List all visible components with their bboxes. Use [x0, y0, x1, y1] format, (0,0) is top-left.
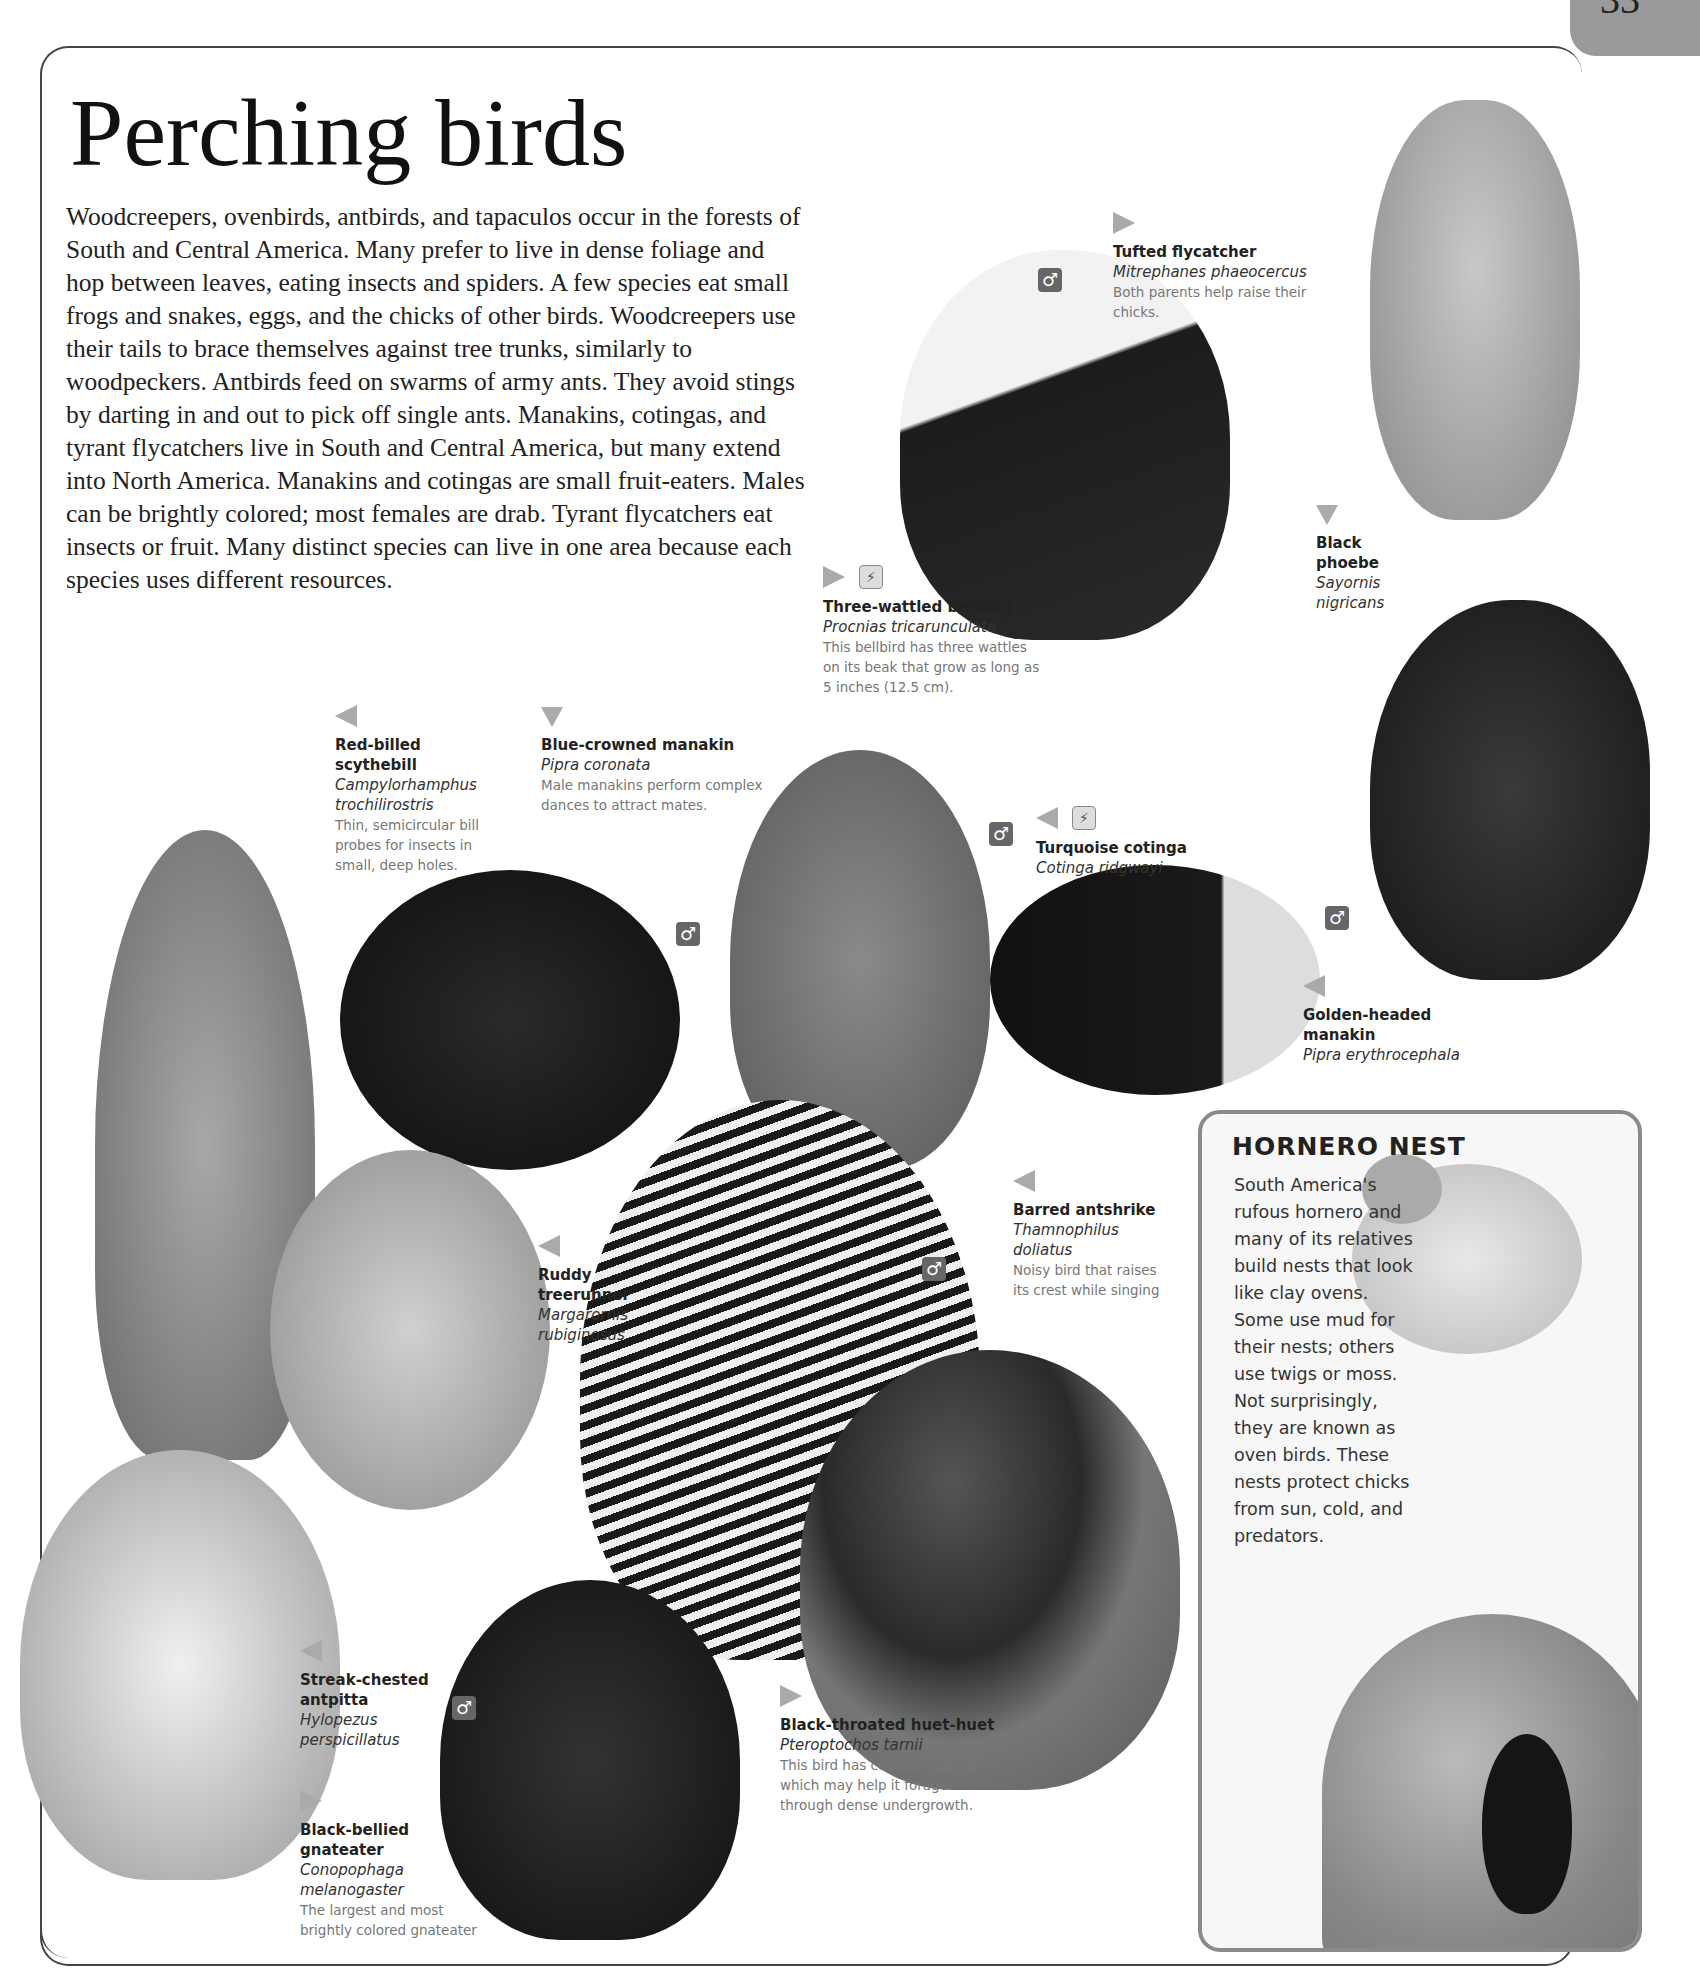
endangered-icon: ⚡: [1072, 806, 1096, 830]
gnateater-illustration: [440, 1580, 740, 1940]
antpitta-illustration: [20, 1450, 340, 1880]
arrow-right-icon: [823, 566, 845, 588]
tufted-flycatcher-illustration: [1370, 100, 1580, 520]
label-black-phoebe: Black phoebe Sayornis nigricans: [1316, 505, 1426, 613]
common-name: Black phoebe: [1316, 533, 1426, 573]
description: Noisy bird that raises its crest while s…: [1013, 1260, 1173, 1300]
male-symbol-icon: ♂: [989, 822, 1013, 846]
nest-entrance: [1482, 1734, 1572, 1914]
common-name: Red-billed scythebill: [335, 735, 495, 775]
scientific-name: Conopophaga melanogaster: [300, 1860, 480, 1900]
arrow-right-icon: [1113, 212, 1135, 234]
description: Thin, semicircular bill probes for insec…: [335, 815, 495, 875]
label-black-bellied-gnateater: Black-bellied gnateater Conopophaga mela…: [300, 1790, 480, 1940]
male-symbol-icon: ♂: [1038, 268, 1062, 292]
common-name: Black-throated huet-huet: [780, 1715, 1000, 1735]
arrow-left-icon: [538, 1235, 560, 1257]
common-name: Barred antshrike: [1013, 1200, 1173, 1220]
arrow-down-icon: [541, 707, 563, 727]
description: This bellbird has three wattles on its b…: [823, 637, 1043, 697]
scientific-name: Procnias tricarunculata: [823, 617, 1043, 637]
label-ruddy-treerunner: Ruddy treerunner Margarornis rubiginosus: [538, 1235, 688, 1345]
male-symbol-icon: ♂: [1325, 906, 1349, 930]
arrow-left-icon: [1036, 807, 1058, 829]
ruddy-treerunner-illustration: [270, 1150, 550, 1510]
page-number-tab: 33: [1570, 0, 1700, 56]
scientific-name: Pipra erythrocephala: [1303, 1045, 1483, 1065]
nest-mound-illustration: [1322, 1614, 1642, 1952]
label-three-wattled-bellbird: ⚡ Three-wattled bellbird Procnias tricar…: [823, 565, 1043, 697]
common-name: Tufted flycatcher: [1113, 242, 1343, 262]
hornero-nest-sidebar: HORNERO NEST South America's rufous horn…: [1198, 1110, 1642, 1952]
black-phoebe-illustration: [1370, 600, 1650, 980]
label-red-billed-scythebill: Red-billed scythebill Campylorhamphus tr…: [335, 705, 495, 875]
arrow-left-icon: [1303, 975, 1325, 997]
label-turquoise-cotinga: ⚡ Turquoise cotinga Cotinga ridgwayi: [1036, 806, 1196, 878]
scientific-name: Pipra coronata: [541, 755, 781, 775]
arrow-right-icon: [300, 1790, 322, 1812]
scientific-name: Cotinga ridgwayi: [1036, 858, 1196, 878]
male-symbol-icon: ♂: [922, 1257, 946, 1281]
description: This bird has covered nostrils, which ma…: [780, 1755, 1000, 1815]
scientific-name: Thamnophilus doliatus: [1013, 1220, 1173, 1260]
page-title: Perching birds: [70, 78, 627, 188]
male-symbol-icon: ♂: [676, 922, 700, 946]
common-name: Black-bellied gnateater: [300, 1820, 480, 1860]
male-symbol-icon: ♂: [452, 1696, 476, 1720]
label-golden-headed-manakin: Golden-headed manakin Pipra erythrocepha…: [1303, 975, 1483, 1065]
description: Both parents help raise their chicks.: [1113, 282, 1343, 322]
golden-headed-manakin-illustration: [990, 865, 1320, 1095]
arrow-left-icon: [1013, 1170, 1035, 1192]
scientific-name: Sayornis nigricans: [1316, 573, 1426, 613]
arrow-right-icon: [780, 1685, 802, 1707]
description: The largest and most brightly colored gn…: [300, 1900, 480, 1940]
arrow-down-icon: [1316, 505, 1338, 525]
intro-paragraph: Woodcreepers, ovenbirds, antbirds, and t…: [66, 200, 806, 596]
label-blue-crowned-manakin: Blue-crowned manakin Pipra coronata Male…: [541, 707, 781, 815]
arrow-left-icon: [335, 705, 357, 727]
common-name: Streak-chested antpitta: [300, 1670, 440, 1710]
blue-crowned-manakin-illustration: [340, 870, 680, 1170]
scientific-name: Hylopezus perspicillatus: [300, 1710, 440, 1750]
scientific-name: Pteroptochos tarnii: [780, 1735, 1000, 1755]
scientific-name: Margarornis rubiginosus: [538, 1305, 688, 1345]
description: Male manakins perform complex dances to …: [541, 775, 781, 815]
sidebar-title: HORNERO NEST: [1232, 1132, 1466, 1161]
scientific-name: Campylorhamphus trochilirostris: [335, 775, 495, 815]
endangered-icon: ⚡: [859, 565, 883, 589]
common-name: Turquoise cotinga: [1036, 838, 1196, 858]
common-name: Blue-crowned manakin: [541, 735, 781, 755]
common-name: Golden-headed manakin: [1303, 1005, 1483, 1045]
common-name: Ruddy treerunner: [538, 1265, 688, 1305]
label-black-throated-huet-huet: Black-throated huet-huet Pteroptochos ta…: [780, 1685, 1000, 1815]
label-barred-antshrike: Barred antshrike Thamnophilus doliatus N…: [1013, 1170, 1173, 1300]
sidebar-text: South America's rufous hornero and many …: [1234, 1172, 1414, 1550]
common-name: Three-wattled bellbird: [823, 597, 1043, 617]
page-number: 33: [1600, 0, 1640, 23]
label-streak-chested-antpitta: Streak-chested antpitta Hylopezus perspi…: [300, 1640, 440, 1750]
arrow-left-icon: [300, 1640, 322, 1662]
scientific-name: Mitrephanes phaeocercus: [1113, 262, 1343, 282]
label-tufted-flycatcher: Tufted flycatcher Mitrephanes phaeocercu…: [1113, 212, 1343, 322]
